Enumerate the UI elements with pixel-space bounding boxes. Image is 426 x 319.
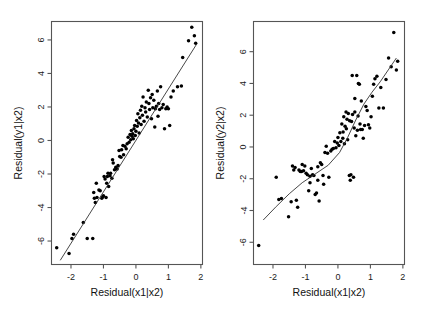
data-point (176, 85, 180, 89)
data-point (124, 147, 128, 151)
data-point (324, 144, 328, 148)
x-tick-label: 0 (335, 272, 340, 282)
data-point (92, 191, 96, 195)
y-tick-label: -2 (239, 175, 249, 183)
data-point (144, 110, 148, 114)
data-point (338, 131, 342, 135)
data-point (149, 96, 153, 100)
data-point (320, 163, 324, 167)
y-tick-label: -6 (37, 237, 47, 245)
data-point (356, 129, 360, 133)
data-point (187, 39, 191, 43)
data-point (134, 134, 138, 138)
data-point (350, 74, 354, 78)
data-points-left (55, 26, 197, 256)
data-point (289, 200, 293, 204)
data-point (142, 119, 146, 123)
data-point (360, 99, 364, 103)
data-point (342, 115, 346, 119)
data-point (160, 106, 164, 110)
data-point (193, 34, 197, 38)
x-tick-label: 1 (166, 272, 171, 282)
data-point (136, 112, 140, 116)
data-point (310, 167, 314, 171)
data-point (180, 84, 184, 88)
data-point (302, 169, 306, 173)
data-point (168, 124, 172, 128)
x-axis-title-left: Residual(x1|x2) (91, 286, 164, 298)
data-point (85, 237, 89, 241)
data-point (336, 136, 340, 140)
y-tick-label: -4 (37, 204, 47, 212)
scatter-panel-left: -2-1012-6-4-20246 Residual(x1|x2) Residu… (0, 0, 213, 319)
data-point (308, 181, 312, 185)
data-point (138, 116, 142, 120)
data-point (95, 196, 99, 200)
data-point (367, 123, 371, 127)
data-point (354, 134, 358, 138)
y-tick-label: 0 (239, 144, 249, 149)
y-tick-label: 2 (37, 104, 47, 109)
data-point (139, 123, 143, 127)
scatter-plot-left-svg: -2-1012-6-4-20246 Residual(x1|x2) Residu… (0, 0, 213, 319)
data-point (190, 26, 194, 30)
data-point (152, 99, 156, 103)
data-point (55, 246, 59, 250)
data-point (120, 148, 124, 152)
data-point (347, 112, 351, 116)
data-point (322, 183, 326, 187)
data-point (355, 74, 359, 78)
data-point (167, 107, 171, 111)
data-point (396, 59, 400, 63)
data-point (295, 198, 299, 202)
y-axis-title-left: Residual(y1|x2) (12, 107, 24, 180)
data-point (327, 175, 331, 179)
y-tick-label: 6 (239, 49, 249, 54)
x-axis-title-right: Residual(x1|x2) (293, 286, 366, 298)
data-point (153, 125, 157, 129)
data-point (98, 189, 102, 193)
data-point (163, 127, 167, 131)
data-point (139, 109, 143, 113)
data-point (135, 124, 139, 128)
data-point (362, 136, 366, 140)
figure-container: -2-1012-6-4-20246 Residual(x1|x2) Residu… (0, 0, 426, 319)
data-point (384, 78, 388, 82)
data-point (132, 137, 136, 141)
data-point (352, 175, 356, 179)
data-point (134, 130, 138, 134)
data-point (147, 102, 151, 106)
data-point (371, 94, 375, 98)
data-point (358, 122, 362, 126)
y-axis-title-right: Residual(y2|x2) (214, 107, 226, 180)
data-point (150, 93, 154, 97)
data-point (392, 31, 396, 35)
data-point (334, 146, 338, 150)
data-point (146, 115, 150, 119)
data-point (156, 89, 160, 93)
data-point (358, 82, 362, 86)
x-tick-label: -1 (301, 272, 309, 282)
data-point (369, 115, 373, 119)
data-point (377, 106, 381, 110)
data-point (148, 108, 152, 112)
data-point (316, 179, 320, 183)
data-point (95, 181, 99, 185)
data-point (141, 95, 145, 99)
data-point (104, 196, 108, 200)
x-tick-label: 2 (400, 272, 405, 282)
data-point (382, 106, 386, 110)
data-point (274, 175, 277, 179)
data-point (353, 110, 357, 114)
y-tick-label: -4 (239, 206, 249, 214)
data-point (317, 199, 321, 203)
data-point (143, 106, 147, 110)
data-point (363, 124, 367, 128)
x-tick-label: -2 (269, 272, 277, 282)
data-points-right (257, 31, 399, 247)
y-tick-label: 6 (37, 37, 47, 42)
data-point (287, 215, 291, 219)
data-point (147, 88, 151, 92)
data-point (109, 171, 113, 175)
data-point (341, 130, 345, 134)
